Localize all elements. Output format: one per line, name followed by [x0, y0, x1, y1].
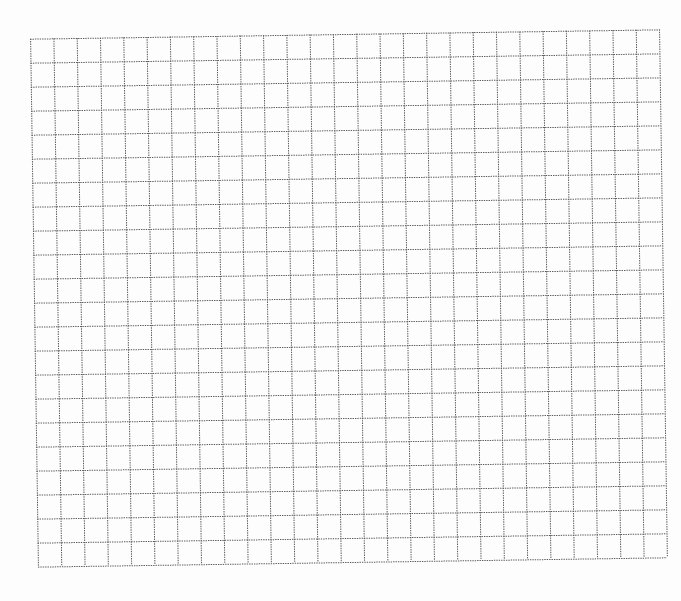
grid-vertical-line [147, 37, 155, 565]
grid-paper-page [0, 0, 681, 601]
grid-horizontal-line [30, 30, 659, 39]
grid-vertical-line [449, 32, 457, 560]
grid-vertical-line [310, 35, 318, 563]
grid-vertical-line [53, 38, 61, 566]
grid-vertical-line [543, 31, 551, 559]
grid-vertical-line [612, 30, 620, 558]
grid-lines [30, 29, 667, 566]
grid-vertical-line [286, 35, 294, 563]
grid-vertical-line [519, 31, 527, 559]
grid-vertical-line [216, 36, 224, 564]
grid-vertical-line [123, 37, 131, 565]
grid-vertical-line [659, 29, 667, 557]
grid-vertical-line [380, 34, 388, 562]
dotted-grid [30, 29, 667, 566]
